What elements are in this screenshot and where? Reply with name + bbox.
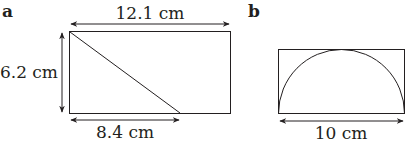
figure-b: b 10 cm: [248, 1, 405, 143]
rectangle-a: [70, 32, 231, 114]
diagonal-line: [70, 32, 180, 113]
figure-b-label: b: [248, 1, 260, 21]
diagram-canvas: a 12.1 cm 6.2 cm 8.4 cm b 10 cm: [0, 0, 416, 143]
top-dimension-label: 12.1 cm: [116, 3, 185, 23]
semicircle: [279, 50, 405, 114]
bottom-dimension-label: 8.4 cm: [96, 122, 154, 142]
figure-a: a 12.1 cm 6.2 cm 8.4 cm: [0, 1, 231, 142]
figure-a-label: a: [2, 1, 13, 21]
bottom-dimension-label-b: 10 cm: [315, 123, 368, 143]
left-dimension-label: 6.2 cm: [0, 62, 58, 82]
rectangle-b: [279, 50, 405, 114]
